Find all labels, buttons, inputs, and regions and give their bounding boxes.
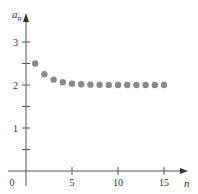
- x-tick-label: 5: [70, 177, 75, 188]
- data-point: [41, 71, 47, 77]
- origin-label: 0: [10, 177, 15, 188]
- data-point: [78, 81, 84, 87]
- data-points: [32, 60, 167, 88]
- data-point: [124, 82, 130, 88]
- y-tick-label: 1: [13, 123, 18, 134]
- sequence-chart: 0 n an 51015123: [0, 0, 198, 194]
- y-tick-label: 3: [13, 37, 18, 48]
- y-axis-label-subscript: n: [18, 14, 22, 23]
- data-point: [50, 76, 56, 82]
- data-point: [87, 81, 93, 87]
- data-point: [106, 82, 112, 88]
- labels: 0 n an 51015123: [10, 8, 191, 189]
- y-axis-label: an: [12, 8, 22, 23]
- x-axis-label: n: [184, 177, 190, 189]
- data-point: [142, 82, 148, 88]
- data-point: [133, 82, 139, 88]
- y-axis-arrow-icon: [23, 13, 29, 22]
- axes: [8, 13, 188, 186]
- data-point: [161, 82, 167, 88]
- y-tick-label: 2: [13, 80, 18, 91]
- data-point: [32, 60, 38, 66]
- data-point: [115, 82, 121, 88]
- x-axis-arrow-icon: [180, 168, 188, 174]
- x-tick-label: 10: [113, 177, 123, 188]
- data-point: [69, 80, 75, 86]
- data-point: [96, 82, 102, 88]
- x-tick-label: 15: [159, 177, 169, 188]
- data-point: [152, 82, 158, 88]
- ticks: [22, 42, 164, 175]
- data-point: [60, 79, 66, 85]
